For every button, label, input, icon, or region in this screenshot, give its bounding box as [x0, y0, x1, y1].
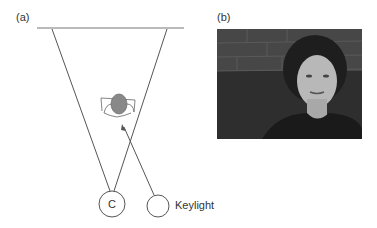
subject-photo [217, 29, 362, 139]
subject-icon [101, 94, 135, 117]
head-icon [111, 94, 127, 114]
panel-b-label: (b) [217, 11, 230, 23]
keylight-circle [147, 195, 169, 217]
fov-left-line [52, 29, 110, 191]
lighting-diagram: C [0, 0, 210, 228]
arrowhead-icon [121, 124, 126, 131]
keylight-arrow-line [124, 127, 154, 195]
camera-label: C [108, 198, 116, 210]
keylight-label: Keylight [175, 199, 214, 211]
